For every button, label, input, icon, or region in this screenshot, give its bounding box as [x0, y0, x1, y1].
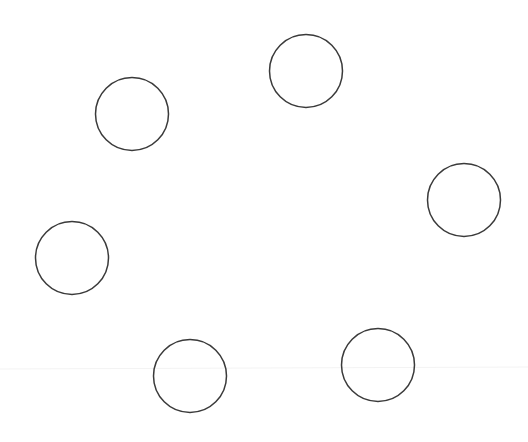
circle-node-1 — [96, 78, 169, 151]
circle-node-3 — [428, 164, 501, 237]
faint-horizontal-line — [0, 367, 528, 369]
circle-node-2 — [270, 35, 343, 108]
circle-group — [36, 35, 501, 413]
circle-diagram — [0, 0, 528, 442]
circle-node-4 — [36, 222, 109, 295]
circle-node-5 — [154, 340, 227, 413]
diagram-canvas — [0, 0, 528, 442]
circle-node-6 — [342, 329, 415, 402]
